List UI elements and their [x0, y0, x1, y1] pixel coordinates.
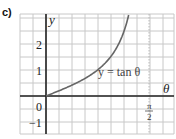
- tan-graph: −112 0 y θ y = tan θ π 2: [0, 0, 176, 139]
- pi-over-2-label: π 2: [145, 101, 153, 122]
- origin-label: 0: [36, 100, 42, 114]
- y-tick-label: 2: [36, 38, 42, 52]
- y-axis-label: y: [47, 12, 55, 27]
- tan-curve: [46, 15, 129, 96]
- curve-label: y = tan θ: [98, 65, 140, 79]
- svg-text:π: π: [147, 101, 152, 111]
- svg-text:2: 2: [147, 112, 152, 122]
- y-tick-label: −1: [29, 116, 42, 130]
- x-axis-label: θ: [163, 81, 170, 96]
- y-tick-label: 1: [36, 64, 42, 78]
